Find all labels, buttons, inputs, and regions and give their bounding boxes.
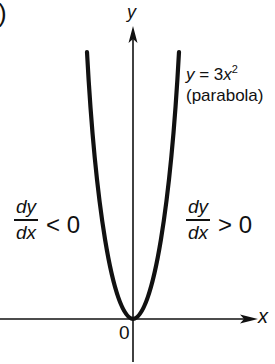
left-relation: < 0 xyxy=(46,211,80,239)
origin-label: 0 xyxy=(119,322,130,344)
left-derivative-fraction: dy dx xyxy=(14,197,38,243)
y-axis-label: y xyxy=(127,2,136,23)
parabola-plot xyxy=(0,0,275,364)
right-numerator: dy xyxy=(186,197,210,217)
equation-var: x xyxy=(223,65,232,84)
equation-exponent: 2 xyxy=(232,63,238,75)
right-fraction-bar xyxy=(186,219,210,221)
left-denominator: dx xyxy=(14,223,38,243)
right-relation: > 0 xyxy=(218,211,252,239)
panel-marker: ) xyxy=(0,0,7,29)
right-denominator: dx xyxy=(186,223,210,243)
equation-coef: = 3 xyxy=(195,65,224,84)
curve-equation-label: y = 3x2 xyxy=(186,63,238,85)
curve-name-label: (parabola) xyxy=(186,86,264,106)
right-derivative-fraction: dy dx xyxy=(186,197,210,243)
equation-lhs: y xyxy=(186,65,195,84)
left-fraction-bar xyxy=(14,219,38,221)
left-numerator: dy xyxy=(14,197,38,217)
x-axis-label: x xyxy=(258,305,268,328)
